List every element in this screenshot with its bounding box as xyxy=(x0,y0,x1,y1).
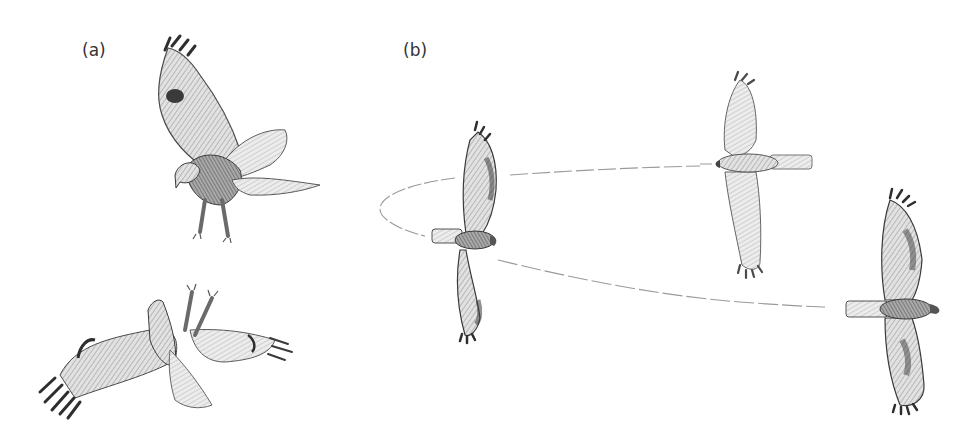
illustration-canvas xyxy=(0,0,977,444)
buzzard-soaring-1 xyxy=(432,122,496,343)
buzzard-soaring-3 xyxy=(846,189,939,414)
buzzard-hovering xyxy=(159,36,320,243)
buzzard-soaring-2 xyxy=(716,72,813,278)
buzzard-stooping xyxy=(40,284,292,418)
